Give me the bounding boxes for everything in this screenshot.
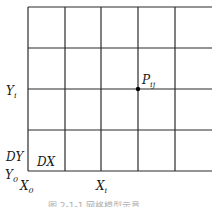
grid-lines <box>28 7 212 171</box>
axis-label-yi: Yi <box>6 84 17 100</box>
axis-label-x0: X0 <box>19 179 34 195</box>
point-label-pij: Pij <box>141 73 156 89</box>
cell-label-dx: DX <box>36 155 56 169</box>
grid-diagram: Pij Yi DY DX Y0 X0 Xi 图 2-1-1 网格模型示意 <box>0 0 212 207</box>
figure-caption: 图 2-1-1 网格模型示意 <box>48 200 140 207</box>
axis-label-y0: Y0 <box>5 168 18 184</box>
axis-label-xi: Xi <box>95 179 108 195</box>
axis-label-dy: DY <box>5 150 25 164</box>
grid-point-pij <box>136 87 140 91</box>
